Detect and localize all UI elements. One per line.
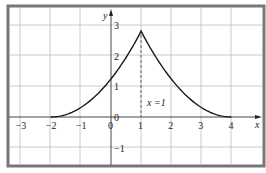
y-tick-label: 3 <box>114 20 119 31</box>
x-axis-label: x <box>254 119 260 130</box>
x-tick-label: 1 <box>138 120 143 131</box>
asymptote-annotation: x =1 <box>146 97 166 108</box>
x-tick-label: 2 <box>168 120 173 131</box>
x-tick-label: −3 <box>16 120 27 131</box>
y-tick-label: 0 <box>114 112 119 123</box>
y-tick-label: −1 <box>114 143 125 154</box>
x-tick-label: 3 <box>198 120 203 131</box>
chart: −3−2−101234 −10123 x y x =1 <box>0 0 266 173</box>
y-tick-label: 1 <box>114 81 119 92</box>
y-tick-label: 2 <box>114 51 119 62</box>
x-tick-label: −2 <box>46 120 57 131</box>
x-tick-label: −1 <box>76 120 87 131</box>
y-axis-label: y <box>102 10 108 21</box>
x-tick-label: 4 <box>228 120 233 131</box>
x-tick-label: 0 <box>108 120 113 131</box>
